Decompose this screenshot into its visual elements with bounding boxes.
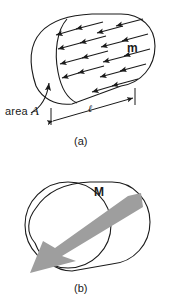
magnetization-arrow: [30, 193, 143, 273]
panel-a-graphic: [0, 0, 170, 140]
panel-b-graphic: [0, 163, 170, 293]
panel-b-caption: (b): [74, 283, 87, 294]
panel-a-caption: (a): [74, 136, 87, 147]
cylinder-outline-a: [31, 14, 155, 104]
moment-label: m: [127, 42, 138, 54]
figure-root: area A m ℓ (a) M (b): [0, 0, 170, 301]
length-dimension-line: [51, 88, 135, 125]
area-label: area A: [5, 104, 39, 117]
length-label: ℓ: [88, 104, 92, 114]
magnetization-label: M: [94, 186, 104, 198]
